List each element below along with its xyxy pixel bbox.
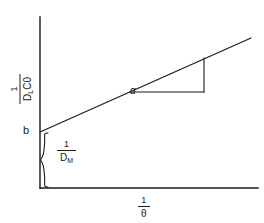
y-axis-denominator-subscript: L xyxy=(27,90,34,94)
data-line xyxy=(40,38,251,132)
x-axis-label: 1 θ xyxy=(138,196,150,219)
y-axis-fraction: 1 DLC0 xyxy=(10,74,33,104)
brace-fraction-bar xyxy=(57,150,76,151)
x-axis-denominator: θ xyxy=(138,208,150,219)
x-axis-fraction-bar xyxy=(138,206,150,207)
x-axis-fraction: 1 θ xyxy=(138,196,150,219)
y-axis-fraction-bar xyxy=(20,74,21,104)
angle-label: α xyxy=(130,86,136,96)
y-axis-denominator: DLC0 xyxy=(22,74,33,104)
y-axis-label: 1 DLC0 xyxy=(8,58,34,120)
brace-numerator: 1 xyxy=(57,140,76,149)
figure-container: 1 DLC0 b 1 DM 1 θ α xyxy=(0,0,264,223)
y-axis-denominator-main: D xyxy=(22,94,33,101)
brace-denominator-subscript: M xyxy=(67,157,73,164)
plot-canvas xyxy=(0,0,264,223)
intercept-label: b xyxy=(23,125,29,136)
y-axis-numerator: 1 xyxy=(10,74,19,104)
x-axis-numerator: 1 xyxy=(138,196,150,205)
brace-fraction: 1 DM xyxy=(57,140,76,163)
y-axis-denominator-tail: C0 xyxy=(22,77,33,90)
brace xyxy=(41,133,49,187)
y-axis-label-rotated: 1 DLC0 xyxy=(10,74,33,104)
brace-label: 1 DM xyxy=(57,140,76,163)
brace-denominator: DM xyxy=(57,152,76,163)
